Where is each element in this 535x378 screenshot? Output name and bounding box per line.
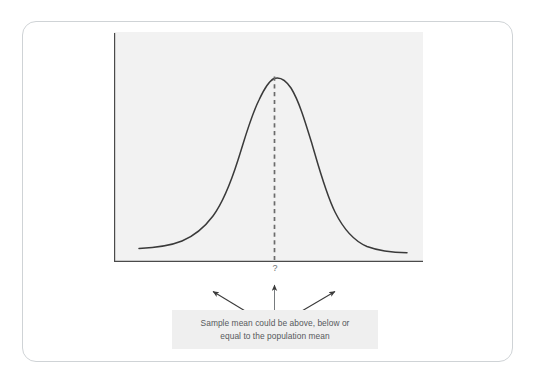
- normal-curve: [139, 78, 407, 253]
- distribution-chart-svg: [114, 32, 423, 262]
- mean-question-label: ?: [268, 263, 282, 274]
- caption-line-1: Sample mean could be above, below or: [201, 318, 350, 328]
- figure-root: ? Sample mean could be above, below oreq…: [0, 0, 535, 378]
- caption-text: Sample mean could be above, below orequa…: [201, 317, 350, 342]
- caption-line-2: equal to the population mean: [220, 331, 329, 341]
- chart-panel: [114, 32, 423, 262]
- arrow-left: [213, 292, 246, 312]
- arrow-right: [301, 292, 335, 312]
- caption-callout-box: Sample mean could be above, below orequa…: [172, 310, 378, 349]
